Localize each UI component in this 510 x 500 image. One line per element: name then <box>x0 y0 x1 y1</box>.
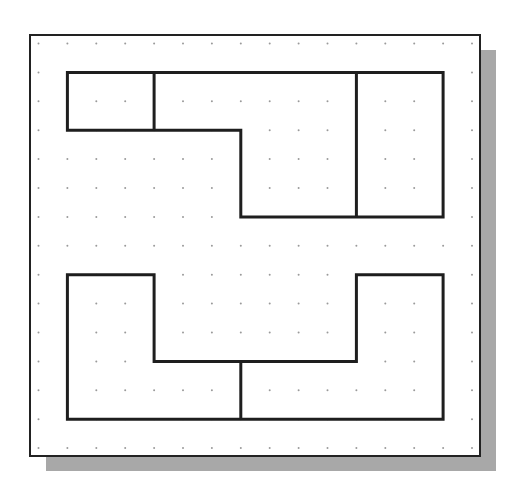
grid-dot <box>153 187 155 189</box>
grid-dot <box>124 360 126 362</box>
grid-dot <box>471 447 473 449</box>
grid-dot <box>471 360 473 362</box>
grid-dot <box>269 447 271 449</box>
grid-dot <box>95 245 97 247</box>
grid-dot <box>471 216 473 218</box>
grid-dot <box>95 447 97 449</box>
grid-dot <box>413 43 415 45</box>
grid-dot <box>240 274 242 276</box>
grid-dot <box>38 129 40 131</box>
grid-dot <box>66 216 68 218</box>
grid-dot <box>413 100 415 102</box>
grid-dot <box>66 158 68 160</box>
grid-dot <box>471 332 473 334</box>
grid-dot <box>327 303 329 305</box>
grid-dot <box>182 216 184 218</box>
grid-dot <box>66 43 68 45</box>
grid-dot <box>355 389 357 391</box>
grid-dot <box>240 245 242 247</box>
grid-dot <box>384 303 386 305</box>
grid-dot <box>269 129 271 131</box>
grid-dot <box>124 303 126 305</box>
grid-dot <box>38 332 40 334</box>
grid-dot <box>153 43 155 45</box>
grid-dot <box>471 389 473 391</box>
grid-dot <box>413 129 415 131</box>
grid-dot <box>298 332 300 334</box>
grid-dot <box>355 43 357 45</box>
grid-dot <box>327 447 329 449</box>
grid-dot <box>471 245 473 247</box>
grid-dot <box>211 447 213 449</box>
grid-dot <box>95 43 97 45</box>
grid-dot <box>413 447 415 449</box>
grid-dot <box>38 187 40 189</box>
grid-dot <box>413 332 415 334</box>
grid-dot <box>355 245 357 247</box>
grid-dot <box>211 100 213 102</box>
grid-dot <box>269 303 271 305</box>
grid-dot <box>240 303 242 305</box>
grid-dot <box>413 245 415 247</box>
grid-dot <box>182 158 184 160</box>
grid-dot <box>211 332 213 334</box>
grid-dot <box>298 129 300 131</box>
grid-dot <box>384 447 386 449</box>
grid-dot <box>384 187 386 189</box>
grid-dot <box>211 43 213 45</box>
grid-dot <box>182 187 184 189</box>
grid-dot <box>182 100 184 102</box>
grid-dot <box>471 187 473 189</box>
grid-dot <box>240 332 242 334</box>
grid-dot <box>327 100 329 102</box>
grid-dot <box>95 100 97 102</box>
grid-dot <box>38 303 40 305</box>
grid-dot <box>211 274 213 276</box>
grid-dot <box>471 303 473 305</box>
grid-dot <box>38 43 40 45</box>
grid-dot <box>153 447 155 449</box>
grid-dot <box>327 274 329 276</box>
grid-dot <box>384 389 386 391</box>
grid-dot <box>124 389 126 391</box>
grid-dot <box>66 187 68 189</box>
grid-dot <box>182 332 184 334</box>
grid-dot <box>38 158 40 160</box>
grid-dot <box>298 100 300 102</box>
grid-dot <box>471 158 473 160</box>
grid-dot <box>327 332 329 334</box>
grid-dot <box>38 245 40 247</box>
grid-dot <box>269 274 271 276</box>
grid-dot <box>269 100 271 102</box>
grid-dot <box>182 245 184 247</box>
grid-dot <box>384 360 386 362</box>
grid-dot <box>327 158 329 160</box>
grid-dot <box>182 303 184 305</box>
grid-dot <box>124 245 126 247</box>
grid-dot <box>182 447 184 449</box>
grid-dot <box>38 71 40 73</box>
grid-dot <box>298 158 300 160</box>
grid-dot <box>298 303 300 305</box>
grid-dot <box>413 303 415 305</box>
grid-dot <box>182 389 184 391</box>
grid-dot <box>384 129 386 131</box>
grid-dot <box>153 158 155 160</box>
grid-dot <box>298 187 300 189</box>
grid-dot <box>124 158 126 160</box>
grid-dot <box>95 158 97 160</box>
grid-dot <box>124 447 126 449</box>
grid-dot <box>413 389 415 391</box>
grid-dot <box>471 100 473 102</box>
grid-dot <box>240 100 242 102</box>
grid-dot <box>38 447 40 449</box>
grid-dot <box>153 389 155 391</box>
grid-dot <box>38 389 40 391</box>
grid-dot <box>327 43 329 45</box>
grid-dot <box>269 389 271 391</box>
grid-dot <box>182 274 184 276</box>
grid-dot <box>211 158 213 160</box>
grid-dot <box>471 129 473 131</box>
grid-dot <box>124 100 126 102</box>
grid-dot <box>269 43 271 45</box>
